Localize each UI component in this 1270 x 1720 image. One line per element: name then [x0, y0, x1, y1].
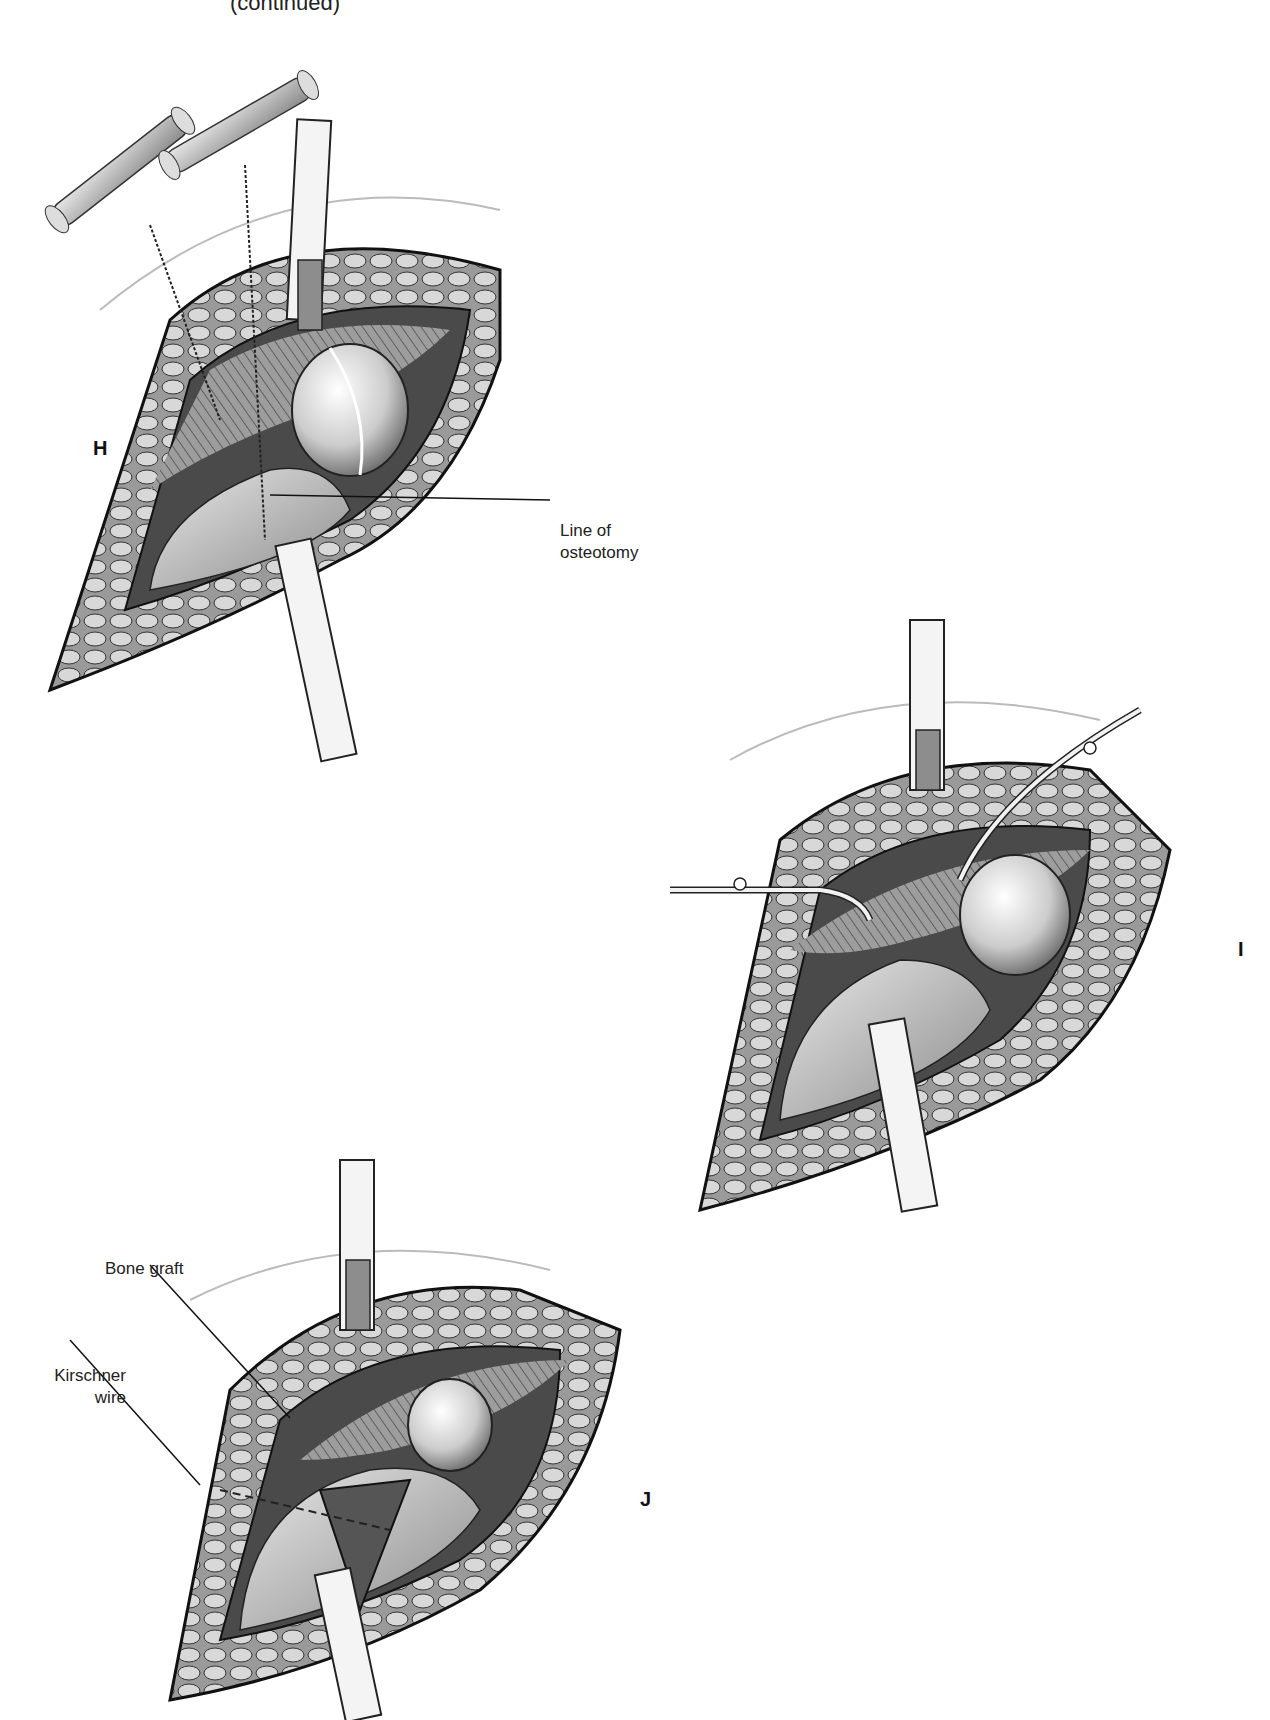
figure-h-illustration	[30, 90, 590, 770]
page-header-fragment: (continued)	[230, 0, 340, 16]
callout-line-of-osteotomy: Line of osteotomy	[560, 520, 638, 564]
callout-line-1: Line of	[560, 520, 638, 542]
panel-label-j: J	[640, 1488, 651, 1511]
surgical-exposure-i-drawing	[670, 620, 1230, 1220]
panel-label-i: I	[1238, 938, 1244, 961]
figure-i-illustration	[670, 620, 1230, 1220]
panel-label-h: H	[93, 437, 107, 460]
callout-line-2: osteotomy	[560, 542, 638, 564]
surgical-exposure-h-drawing	[30, 90, 590, 770]
surgical-exposure-j-drawing	[150, 1160, 670, 1720]
callout-line-2: wire	[30, 1387, 126, 1409]
callout-line-1: Kirschner	[30, 1365, 126, 1387]
callout-line-1: Bone graft	[105, 1258, 183, 1280]
figure-j-illustration	[150, 1160, 670, 1720]
callout-bone-graft: Bone graft	[105, 1258, 183, 1280]
callout-kirschner-wire: Kirschner wire	[30, 1365, 126, 1409]
